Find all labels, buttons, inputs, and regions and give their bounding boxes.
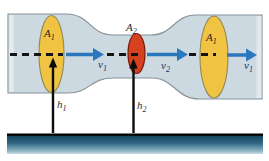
label-height-h1: h1 [57, 98, 67, 113]
label-area-a2-throat: A2 [125, 21, 137, 36]
venturi-diagram: A1 A2 A1 v1 v2 v1 h1 h2 [0, 0, 269, 161]
pipe-open-end-right [257, 16, 262, 98]
cross-section-a1-right [200, 16, 228, 98]
venturi-diagram-canvas: A1 A2 A1 v1 v2 v1 h1 h2 [0, 0, 269, 161]
label-height-h2: h2 [137, 99, 147, 114]
ground [7, 134, 263, 154]
